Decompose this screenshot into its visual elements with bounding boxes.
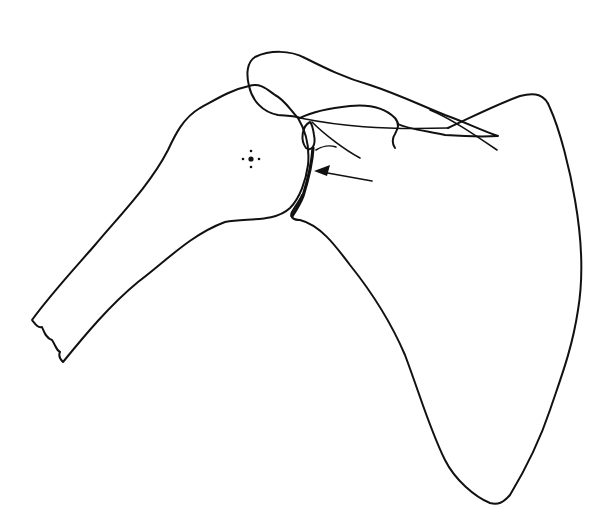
spine-crossing-line bbox=[430, 110, 497, 150]
center-marker bbox=[242, 150, 261, 169]
scapula bbox=[291, 94, 581, 504]
humeral-head-ring bbox=[249, 86, 300, 118]
acromion-outline bbox=[247, 52, 498, 137]
marker-dot-right bbox=[258, 158, 261, 161]
marker-dot-top bbox=[250, 150, 253, 153]
coracoid-curl bbox=[316, 146, 336, 150]
humerus-outline bbox=[32, 85, 308, 362]
marker-dot-bottom bbox=[250, 166, 253, 169]
scapula-spine-line bbox=[300, 118, 448, 129]
marker-dot-left bbox=[242, 158, 245, 161]
humerus bbox=[32, 85, 308, 362]
center-dot bbox=[248, 156, 253, 161]
arrow-shaft bbox=[322, 172, 372, 181]
arrow bbox=[314, 165, 372, 181]
arrow-head-icon bbox=[314, 165, 330, 176]
shoulder-diagram bbox=[0, 0, 606, 531]
coracoid-line bbox=[312, 122, 360, 158]
scapula-outline bbox=[291, 94, 581, 504]
acromion bbox=[247, 52, 498, 148]
